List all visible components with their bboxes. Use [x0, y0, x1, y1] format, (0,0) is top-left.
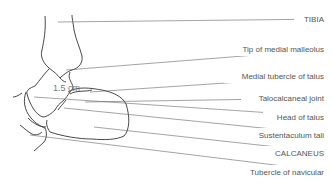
- label-head-of-talus: Head of talus: [277, 113, 324, 122]
- label-medial-tubercle-of-talus: Medial tubercle of talus: [242, 72, 324, 81]
- label-tibia: TIBIA: [304, 15, 324, 24]
- measurement-label: 1.5 cm: [53, 83, 80, 93]
- label-tubercle-of-navicular: Tubercle of navicular: [250, 168, 324, 177]
- label-calcaneus: CALCANEUS: [275, 149, 324, 158]
- label-talocalcaneal-joint: Talocalcaneal joint: [259, 94, 324, 103]
- label-tip-of-medial-malleolus: Tip of medial malleolus: [242, 45, 324, 54]
- label-sustentaculum-tali: Sustentaculum tali: [259, 131, 324, 140]
